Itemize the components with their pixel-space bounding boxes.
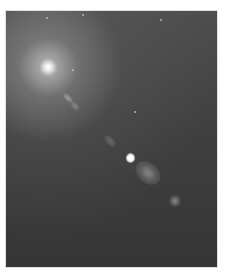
star — [160, 19, 162, 21]
star — [72, 69, 74, 71]
star — [82, 14, 84, 16]
jet-knot-mid — [102, 133, 118, 149]
star — [46, 17, 48, 19]
star — [134, 111, 136, 113]
jet-knot-inner-2 — [69, 100, 80, 111]
galaxy-photo — [6, 11, 217, 267]
jet-bright-knot — [126, 153, 135, 163]
jet-glow — [131, 156, 165, 189]
jet-end-knot — [169, 195, 181, 207]
